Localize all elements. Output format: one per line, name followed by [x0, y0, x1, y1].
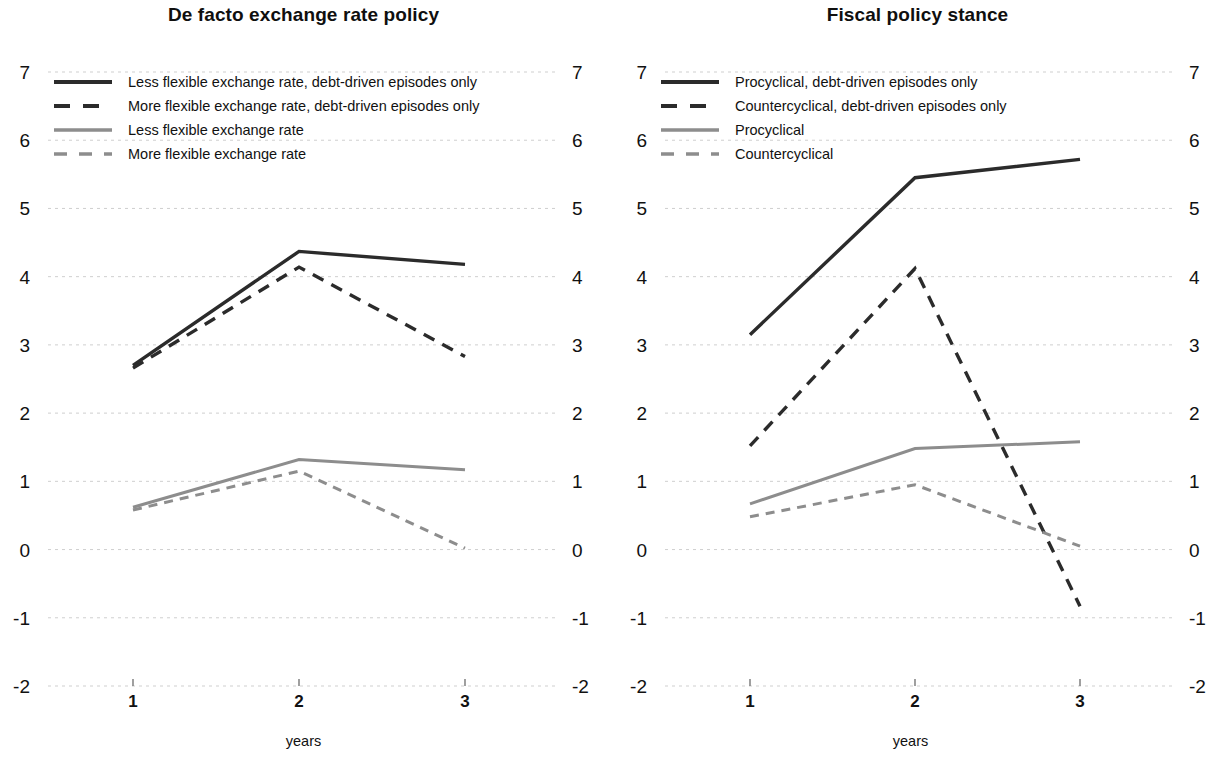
legend-label: Procyclical: [735, 123, 804, 138]
legend-swatch-icon: [52, 97, 114, 115]
panel-right: Fiscal policy stance -2-2-1-100112233445…: [607, 0, 1214, 780]
y-tick-label-left: 5: [636, 198, 647, 219]
panel-left-xaxis-label: years: [0, 733, 607, 749]
y-tick-label-right: -1: [572, 608, 589, 629]
y-tick-label-left: 1: [19, 471, 30, 492]
y-tick-label-left: 3: [636, 335, 647, 356]
y-tick-label-right: -2: [1189, 676, 1206, 697]
panel-right-xaxis-label: years: [607, 733, 1214, 749]
legend-label: Countercyclical, debt-driven episodes on…: [735, 99, 1007, 114]
y-tick-label-right: 7: [572, 62, 583, 83]
legend-swatch-icon: [52, 145, 114, 163]
y-tick-label-right: 0: [572, 540, 583, 561]
legend-label: Less flexible exchange rate, debt-driven…: [128, 75, 477, 90]
y-tick-label-right: 5: [1189, 198, 1200, 219]
legend-item: Procyclical, debt-driven episodes only: [659, 70, 1007, 94]
y-tick-label-right: 2: [572, 403, 583, 424]
panel-left-legend: Less flexible exchange rate, debt-driven…: [52, 70, 479, 166]
series-line-2: [133, 460, 465, 508]
legend-item: Countercyclical: [659, 142, 1007, 166]
y-tick-label-left: 4: [636, 267, 647, 288]
x-tick-label: 1: [745, 692, 754, 711]
y-tick-label-left: 2: [636, 403, 647, 424]
y-tick-label-left: -2: [13, 676, 30, 697]
y-tick-label-left: 2: [19, 403, 30, 424]
legend-label: Countercyclical: [735, 147, 833, 162]
series-line-0: [750, 159, 1080, 334]
legend-label: Procyclical, debt-driven episodes only: [735, 75, 978, 90]
panel-right-legend: Procyclical, debt-driven episodes onlyCo…: [659, 70, 1007, 166]
y-tick-label-left: 7: [19, 62, 30, 83]
y-tick-label-right: 3: [1189, 335, 1200, 356]
y-tick-label-right: 0: [1189, 540, 1200, 561]
x-tick-label: 1: [128, 692, 137, 711]
series-line-2: [750, 442, 1080, 504]
legend-item: Less flexible exchange rate: [52, 118, 479, 142]
y-tick-label-left: 0: [636, 540, 647, 561]
legend-swatch-icon: [659, 73, 721, 91]
legend-label: More flexible exchange rate: [128, 147, 306, 162]
y-tick-label-right: 5: [572, 198, 583, 219]
legend-label: Less flexible exchange rate: [128, 123, 304, 138]
y-tick-label-right: 6: [572, 130, 583, 151]
y-tick-label-right: -2: [572, 676, 589, 697]
y-tick-label-left: 6: [636, 130, 647, 151]
series-line-1: [750, 268, 1080, 606]
legend-swatch-icon: [659, 145, 721, 163]
y-tick-label-left: 5: [19, 198, 30, 219]
legend-swatch-icon: [52, 73, 114, 91]
y-tick-label-left: 7: [636, 62, 647, 83]
y-tick-label-left: 1: [636, 471, 647, 492]
y-tick-label-left: -2: [630, 676, 647, 697]
legend-swatch-icon: [659, 121, 721, 139]
y-tick-label-left: -1: [13, 608, 30, 629]
legend-item: More flexible exchange rate, debt-driven…: [52, 94, 479, 118]
legend-item: Procyclical: [659, 118, 1007, 142]
legend-item: More flexible exchange rate: [52, 142, 479, 166]
figure-panels: De facto exchange rate policy -2-2-1-100…: [0, 0, 1214, 780]
y-tick-label-right: 3: [572, 335, 583, 356]
panel-left: De facto exchange rate policy -2-2-1-100…: [0, 0, 607, 780]
y-tick-label-left: -1: [630, 608, 647, 629]
legend-item: Less flexible exchange rate, debt-driven…: [52, 70, 479, 94]
x-tick-label: 3: [1075, 692, 1084, 711]
x-tick-label: 2: [910, 692, 919, 711]
y-tick-label-right: 4: [1189, 267, 1200, 288]
y-tick-label-left: 6: [19, 130, 30, 151]
y-tick-label-left: 0: [19, 540, 30, 561]
legend-swatch-icon: [52, 121, 114, 139]
x-tick-label: 2: [294, 692, 303, 711]
y-tick-label-right: 7: [1189, 62, 1200, 83]
series-line-3: [750, 485, 1080, 546]
series-line-3: [133, 471, 465, 548]
y-tick-label-left: 4: [19, 267, 30, 288]
legend-swatch-icon: [659, 97, 721, 115]
x-tick-label: 3: [460, 692, 469, 711]
y-tick-label-left: 3: [19, 335, 30, 356]
series-line-1: [133, 267, 465, 368]
y-tick-label-right: 6: [1189, 130, 1200, 151]
legend-label: More flexible exchange rate, debt-driven…: [128, 99, 479, 114]
legend-item: Countercyclical, debt-driven episodes on…: [659, 94, 1007, 118]
y-tick-label-right: 4: [572, 267, 583, 288]
y-tick-label-right: 1: [572, 471, 583, 492]
y-tick-label-right: -1: [1189, 608, 1206, 629]
y-tick-label-right: 1: [1189, 471, 1200, 492]
y-tick-label-right: 2: [1189, 403, 1200, 424]
